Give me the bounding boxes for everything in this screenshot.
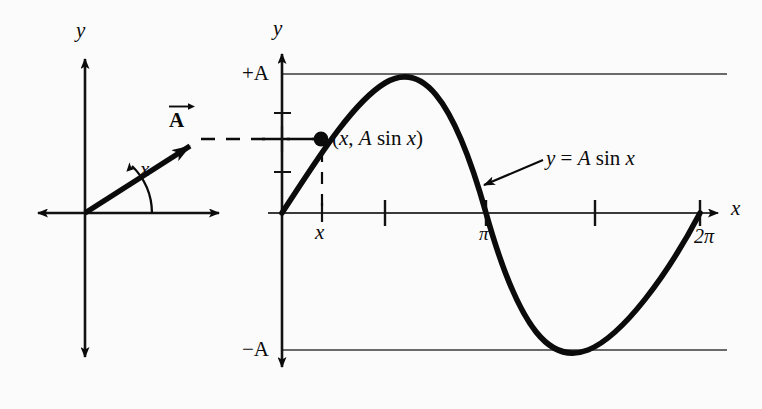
point-label-var-x: x [339,126,348,150]
amplitude-positive-label: +A [242,63,269,84]
equation-amplitude: A [578,146,591,170]
point-label-close: ) [416,126,423,150]
angle-x-label: x [140,159,149,180]
curve-equation-label: y = A sin x [546,148,635,169]
marked-point [314,132,329,147]
right-x-axis-label: x [731,198,740,219]
tick-label-two-pi: 2π [694,226,714,246]
point-coordinate-label: (x, A sin x) [332,128,423,149]
vector-a-label: A [169,101,184,131]
figure-root: y A x y x +A −A π 2π x (x, A sin x) y = … [0,0,762,409]
amplitude-negative-text: −A [242,337,269,361]
point-label-sin: sin [372,126,407,150]
equation-sin: sin [591,146,626,170]
curve-label-leader-arrow [484,160,543,185]
tick-label-pi: π [479,224,489,243]
vector-a-letter: A [169,108,184,132]
point-label-amplitude: A [359,126,372,150]
figure-canvas [0,0,762,409]
amplitude-positive-text: +A [242,61,269,85]
equation-equals: = [555,146,577,170]
vector-a-arrow [85,146,190,213]
amplitude-negative-label: −A [242,339,269,360]
equation-y: y [546,146,555,170]
equation-x: x [626,146,635,170]
point-label-comma: , [348,126,359,150]
x-foot-label: x [315,222,324,243]
left-y-axis-label: y [76,20,85,41]
vector-arrow-overbar-icon [169,101,184,110]
sine-curve [282,77,700,353]
right-sine-graph [262,54,727,367]
point-label-var-x2: x [407,126,416,150]
right-y-axis-label: y [273,18,282,39]
point-label-open: ( [332,126,339,150]
